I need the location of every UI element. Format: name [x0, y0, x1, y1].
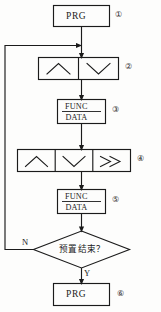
flowchart-diagram: PRG FUNC DATA FUNC DATA 预置结束？ PRG N Y ① …	[0, 0, 161, 312]
branch-label-no: N	[22, 238, 28, 247]
node-func-data-3-label-top: FUNC	[65, 103, 88, 111]
step-number-6: ⑥	[117, 290, 124, 298]
node-prg-bottom-label: PRG	[66, 290, 86, 300]
up-chevron-icon-n2	[47, 64, 70, 75]
double-right-chevron-icon-n4	[101, 157, 111, 167]
node-func-data-5-label-bottom: DATA	[66, 204, 88, 212]
down-chevron-icon-n4	[63, 157, 85, 167]
node-prg-top-label: PRG	[66, 12, 86, 22]
down-chevron-icon-n2	[87, 64, 110, 75]
step-number-3: ③	[112, 106, 119, 114]
node-chevrons-3-shape	[18, 150, 131, 172]
node-func-data-3-label-bottom: DATA	[66, 114, 88, 122]
branch-label-yes: Y	[84, 269, 90, 278]
step-number-5: ⑤	[112, 196, 119, 204]
node-func-data-5-label-top: FUNC	[65, 193, 88, 201]
node-decision-label: 预置结束？	[59, 245, 106, 254]
up-chevron-icon-n4	[26, 157, 48, 167]
step-number-2: ②	[125, 63, 132, 71]
step-number-4: ④	[137, 155, 144, 163]
edge-n6-n2-no-loop	[5, 46, 79, 250]
step-number-1: ①	[115, 11, 122, 19]
